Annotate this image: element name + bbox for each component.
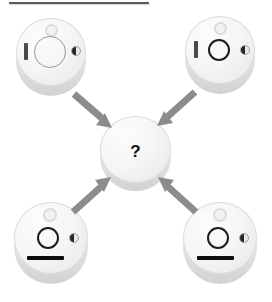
top-light-circle-icon [213,208,227,222]
main-small-dark-ring-icon [37,227,59,249]
main-small-dark-ring-icon [207,227,229,249]
arrow-top-right-to-center [151,90,199,132]
half-filled-dot-icon [240,45,250,55]
half-filled-dot-icon [69,233,79,243]
vertical-bar-icon [194,41,198,58]
main-small-dark-ring-icon [208,39,230,61]
top-divider-rule-shadow [10,4,150,5]
top-light-circle-icon [43,208,57,222]
top-light-circle-icon [214,22,227,35]
source-disc-top-right[interactable] [184,16,256,92]
main-large-pale-ring-icon [34,36,66,68]
vertical-bar-icon [24,43,28,60]
arrow-top-left-to-center [72,92,120,134]
top-light-circle-icon [45,24,58,37]
horizontal-black-bar-icon [197,256,234,260]
puzzle-canvas: ? [0,0,272,302]
half-filled-dot-icon [71,46,81,56]
half-filled-dot-icon [239,233,249,243]
horizontal-black-bar-icon [27,256,64,260]
arrow-bottom-right-to-center [152,172,200,214]
arrow-bottom-left-to-center [70,172,118,214]
source-disc-top-left[interactable] [15,18,87,94]
question-mark-label: ? [99,143,172,160]
source-disc-bottom-left[interactable] [13,202,89,282]
